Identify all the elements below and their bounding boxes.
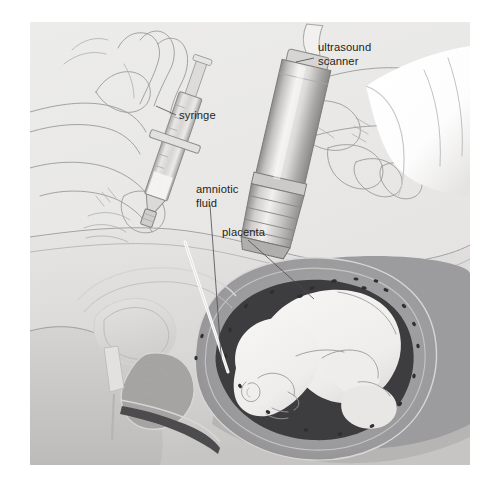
- label-amniotic-fluid-line2: fluid: [196, 197, 217, 209]
- label-ultrasound-scanner-line1: ultrasound: [318, 41, 371, 53]
- label-placenta: placenta: [222, 226, 266, 238]
- figure-root: ultrasound scanner syringe amniotic flui…: [0, 0, 494, 487]
- label-syringe: syringe: [179, 109, 216, 121]
- amniocentesis-illustration: ultrasound scanner syringe amniotic flui…: [0, 0, 494, 487]
- label-amniotic-fluid-line1: amniotic: [196, 183, 239, 195]
- label-ultrasound-scanner-line2: scanner: [318, 55, 359, 67]
